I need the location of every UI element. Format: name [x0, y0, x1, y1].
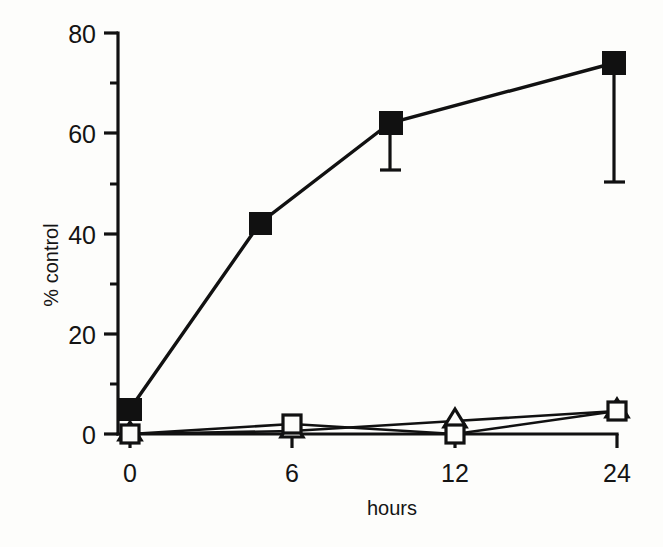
y-tick-label-40: 40 [68, 221, 96, 249]
series-filled-square [120, 52, 625, 420]
axis-group [104, 33, 617, 448]
y-tick-label-80: 80 [68, 20, 96, 48]
open-square-marker-12 [446, 425, 464, 443]
line-chart: 80 60 40 20 0 0 6 12 24 % control hours [0, 0, 663, 547]
x-axis-title: hours [367, 497, 417, 519]
filled-square-marker-12 [380, 112, 402, 134]
y-tick-label-60: 60 [68, 120, 96, 148]
open-square-marker-24 [608, 402, 626, 420]
x-tick-label-0: 0 [123, 459, 137, 487]
y-tick-label-0: 0 [82, 421, 96, 449]
y-tick-label-20: 20 [68, 321, 96, 349]
filled-square-line [130, 63, 614, 409]
open-square-marker-0 [121, 425, 139, 443]
x-tick-labels: 0 6 12 24 [123, 459, 631, 487]
series-open-square [121, 402, 626, 443]
filled-square-marker-0 [120, 399, 141, 420]
x-tick-label-6: 6 [285, 459, 299, 487]
filled-square-marker-24 [603, 52, 625, 74]
y-axis-title: % control [40, 223, 62, 306]
figure-root: 80 60 40 20 0 0 6 12 24 % control hours [0, 0, 663, 547]
filled-square-marker-6 [250, 213, 271, 234]
x-tick-label-12: 12 [441, 459, 469, 487]
open-square-marker-6 [283, 415, 301, 433]
y-tick-labels: 80 60 40 20 0 [68, 20, 96, 449]
x-tick-label-24: 24 [603, 459, 631, 487]
